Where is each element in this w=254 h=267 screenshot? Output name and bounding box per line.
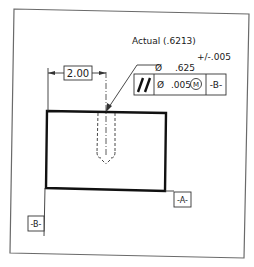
fcf-diameter-symbol: Ø [157,80,164,90]
datum-a-label: -A- [177,196,188,205]
location-dimension: 2.00 [67,68,89,79]
datum-b-label: -B- [31,220,42,229]
actual-note: Actual (.6213) [132,36,196,46]
mmc-modifier: M [193,81,199,89]
hole-diameter-symbol: Ø [155,63,162,73]
tolerance-note: +/-.005 [197,52,231,62]
hole-diameter-value: .625 [175,63,195,73]
fcf-tolerance: .005 [171,80,191,90]
engineering-drawing: 2.00 Actual (.6213) +/-.005 Ø .625 Ø .00… [0,0,254,267]
fcf-datum: -B- [210,80,222,90]
